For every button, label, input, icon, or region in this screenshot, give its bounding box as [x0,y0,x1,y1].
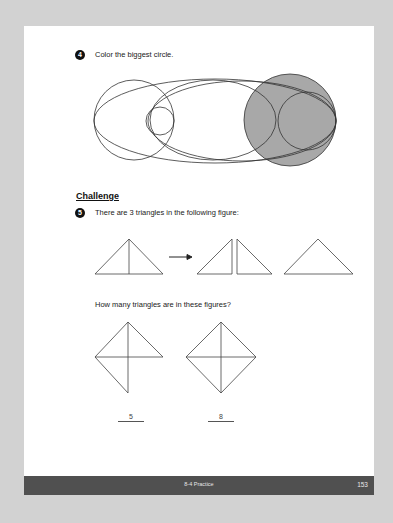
question-5-badge: 5 [75,208,85,218]
answer-figure-b[interactable]: 8 [208,412,234,422]
figure-a [95,322,163,393]
arrow-icon [169,255,192,260]
figure-b [186,322,256,393]
figures-canvas [0,0,393,523]
question-4-text: Color the biggest circle. [95,50,173,59]
triangle-halves [197,239,272,274]
triangle-whole [284,239,353,274]
sub-question-text: How many triangles are in these figures? [95,300,231,309]
footer-title: 8-4 Practice [24,481,374,487]
triangle-split-figure [95,239,163,274]
section-title: Challenge [76,191,119,201]
page-number: 153 [357,481,368,488]
question-5-text: There are 3 triangles in the following f… [95,208,239,217]
left-circle [94,80,174,160]
answer-figure-a[interactable]: 5 [118,412,144,422]
footer-bar: 8-4 Practice 153 [24,476,374,495]
question-4-badge: 4 [75,50,85,60]
